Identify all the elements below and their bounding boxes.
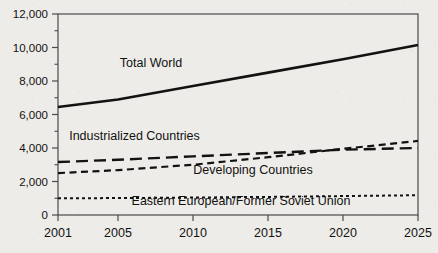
- series-label-industrialized-countries: Industrialized Countries: [69, 129, 200, 143]
- y-axis-tick-label: 12,000: [13, 8, 48, 20]
- x-axis-tick-label: 2001: [44, 226, 72, 240]
- series-line-industrialized-countries: [58, 148, 418, 162]
- y-axis-tick-label: 6,000: [19, 109, 48, 121]
- y-axis-tick-label: 0: [42, 209, 48, 221]
- series-label-eastern-european-former-soviet-union: Eastern European/Former Soviet Union: [132, 194, 351, 208]
- chart-figure: 02,0004,0006,0008,00010,00012,0002001200…: [0, 0, 438, 253]
- series-label-total-world: Total World: [120, 56, 182, 70]
- x-axis-tick-label: 2015: [254, 226, 282, 240]
- series-label-developing-countries: Developing Countries: [193, 163, 313, 177]
- x-axis-tick-label: 2010: [179, 226, 207, 240]
- x-axis-tick-label: 2025: [404, 226, 432, 240]
- x-axis-tick-label: 2020: [329, 226, 357, 240]
- y-axis-tick-label: 8,000: [19, 75, 48, 87]
- y-axis-tick-label: 2,000: [19, 176, 48, 188]
- x-axis-tick-label: 2005: [104, 226, 132, 240]
- line-chart: 02,0004,0006,0008,00010,00012,0002001200…: [0, 0, 438, 253]
- series-line-total-world: [58, 45, 418, 107]
- plot-frame: [58, 14, 418, 215]
- y-axis-tick-label: 4,000: [19, 142, 48, 154]
- y-axis-tick-label: 10,000: [13, 42, 48, 54]
